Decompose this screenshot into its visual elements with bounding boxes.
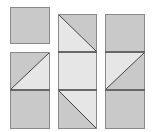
tile (105, 90, 145, 129)
tile (10, 7, 50, 44)
tile (105, 14, 145, 52)
tile (58, 14, 97, 52)
tile-pattern-diagram (0, 0, 157, 132)
tile (10, 52, 50, 90)
column-2 (58, 14, 97, 129)
tile (105, 52, 145, 90)
tile (10, 90, 50, 129)
tile (58, 90, 97, 129)
tile (58, 52, 97, 90)
column-1 (10, 7, 50, 129)
column-3 (105, 14, 145, 129)
